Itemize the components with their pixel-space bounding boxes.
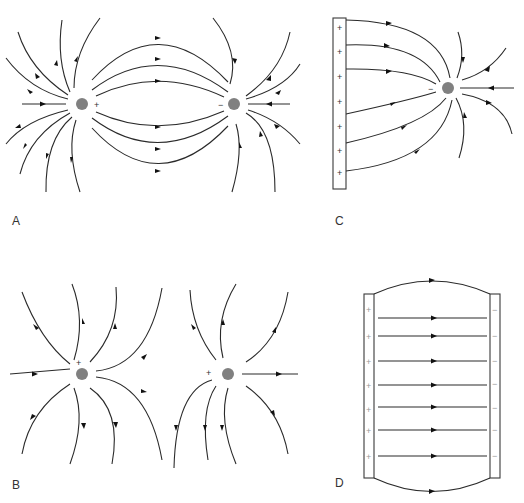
- plus-sign: +: [337, 146, 342, 156]
- electric-field-diagram: + − + + + + + + +: [0, 0, 524, 503]
- negative-charge: [442, 82, 454, 94]
- minus-sign: −: [492, 331, 497, 341]
- minus-sign: −: [492, 305, 497, 315]
- minus-sign: −: [492, 379, 497, 389]
- plus-sign: +: [366, 357, 371, 367]
- minus-sign: −: [428, 84, 433, 94]
- plus-sign: +: [366, 381, 371, 391]
- plus-sign: +: [337, 122, 342, 132]
- plus-sign: +: [366, 305, 371, 315]
- plus-sign: +: [366, 426, 371, 436]
- plus-sign: +: [337, 47, 342, 57]
- panel-a-dipole: + −: [6, 18, 300, 192]
- plus-sign: +: [366, 405, 371, 415]
- plus-sign: +: [337, 97, 342, 107]
- plus-sign: +: [76, 358, 81, 368]
- negative-charge: [228, 98, 240, 110]
- plus-sign: +: [206, 368, 211, 378]
- panel-label-b: B: [12, 478, 20, 492]
- plus-sign: +: [337, 23, 342, 33]
- plus-sign: +: [337, 72, 342, 82]
- minus-sign: −: [492, 356, 497, 366]
- panel-d-parallel-plates: + + + + + + + − − − − − − −: [364, 278, 500, 494]
- plus-sign: +: [94, 100, 99, 110]
- panel-b-two-positive: + +: [10, 284, 298, 468]
- panel-label-c: C: [335, 214, 344, 228]
- positive-charge: [222, 368, 234, 380]
- minus-sign: −: [492, 451, 497, 461]
- minus-sign: −: [218, 100, 223, 110]
- panel-c-plate-charge: + + + + + + + −: [333, 18, 514, 189]
- plus-sign: +: [337, 168, 342, 178]
- positive-charge: [76, 98, 88, 110]
- plus-sign: +: [366, 452, 371, 462]
- panel-label-d: D: [335, 476, 344, 490]
- panel-label-a: A: [12, 214, 20, 228]
- positive-charge: [76, 368, 88, 380]
- minus-sign: −: [492, 403, 497, 413]
- minus-sign: −: [492, 425, 497, 435]
- plus-sign: +: [366, 332, 371, 342]
